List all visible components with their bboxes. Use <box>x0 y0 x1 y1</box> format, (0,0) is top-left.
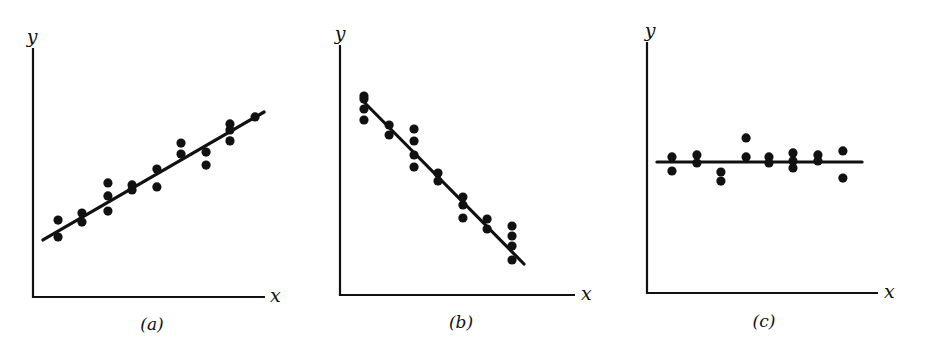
data-point <box>764 158 773 167</box>
data-point <box>507 231 516 240</box>
axes <box>647 42 878 293</box>
data-point <box>359 115 368 124</box>
data-point <box>483 224 492 233</box>
x-axis-label: x <box>884 280 895 302</box>
data-point <box>250 112 259 121</box>
data-point <box>385 120 394 129</box>
plot-area <box>340 45 575 295</box>
x-axis-label: x <box>270 284 281 306</box>
data-point <box>507 241 516 250</box>
scatter-figure: y x (a) y x (b) y x (c) <box>0 0 925 346</box>
data-point <box>225 125 234 134</box>
data-point <box>176 139 185 148</box>
data-point <box>127 185 136 194</box>
data-point <box>409 162 418 171</box>
data-point <box>667 166 676 175</box>
y-axis-label: y <box>644 19 656 41</box>
data-point <box>813 156 822 165</box>
data-point <box>201 147 210 156</box>
data-point <box>176 149 185 158</box>
data-point <box>458 192 467 201</box>
data-point <box>692 158 701 167</box>
data-point <box>53 215 62 224</box>
data-point <box>741 152 750 161</box>
data-point <box>741 133 750 142</box>
data-point <box>359 94 368 103</box>
data-point <box>385 130 394 139</box>
data-point <box>483 214 492 223</box>
data-point <box>409 124 418 133</box>
data-point <box>359 104 368 113</box>
plot-area <box>33 48 265 297</box>
data-point <box>692 150 701 159</box>
plot-area <box>647 42 878 293</box>
data-point <box>458 213 467 222</box>
data-point <box>507 221 516 230</box>
chart-panel-c: y x (c) <box>644 19 895 331</box>
data-point <box>77 217 86 226</box>
data-point <box>507 255 516 264</box>
data-point <box>53 232 62 241</box>
x-axis-label: x <box>581 282 592 304</box>
data-point <box>788 148 797 157</box>
axes <box>33 48 265 297</box>
data-point <box>201 160 210 169</box>
data-point <box>77 208 86 217</box>
data-point <box>433 176 442 185</box>
data-point <box>433 168 442 177</box>
data-point <box>838 146 847 155</box>
data-point <box>716 176 725 185</box>
data-point <box>103 206 112 215</box>
panel-caption: (a) <box>140 314 163 334</box>
data-point <box>103 191 112 200</box>
data-point <box>409 150 418 159</box>
data-point <box>458 200 467 209</box>
data-point <box>788 163 797 172</box>
data-point <box>409 136 418 145</box>
data-point <box>667 152 676 161</box>
y-axis-label: y <box>334 22 346 44</box>
data-point <box>152 182 161 191</box>
chart-panel-b: y x (b) <box>334 22 592 332</box>
data-point <box>225 136 234 145</box>
chart-panel-a: y x (a) <box>26 25 281 334</box>
panel-caption: (b) <box>449 312 473 332</box>
data-point <box>838 173 847 182</box>
data-point <box>152 164 161 173</box>
axes <box>340 45 575 295</box>
panel-caption: (c) <box>753 311 776 331</box>
data-point <box>103 178 112 187</box>
data-point <box>716 167 725 176</box>
y-axis-label: y <box>26 25 38 47</box>
